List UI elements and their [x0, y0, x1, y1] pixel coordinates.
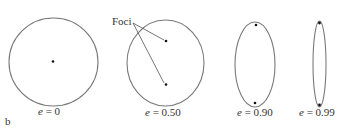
- eccentricity-label-099: e = 0.99: [299, 106, 335, 118]
- eccentricity-label-0: e = 0: [38, 105, 60, 117]
- focus-dot: [318, 22, 321, 25]
- eccentricity-label-090: e = 0.90: [237, 106, 273, 118]
- focus-dot: [165, 40, 168, 43]
- ellipse-e090: [235, 22, 275, 107]
- ellipse-e099: [313, 21, 326, 107]
- foci-label: Foci: [112, 15, 132, 27]
- ellipse-e050: [127, 20, 204, 106]
- ellipse-e0: [9, 18, 98, 106]
- focus-dot: [165, 83, 168, 86]
- panel-label: b: [5, 115, 11, 127]
- focus-dot: [254, 102, 257, 105]
- eccentricity-label-050: e = 0.50: [145, 106, 181, 118]
- focus-dot: [52, 60, 55, 63]
- foci-pointer-line: [133, 23, 164, 83]
- focus-dot: [255, 24, 258, 27]
